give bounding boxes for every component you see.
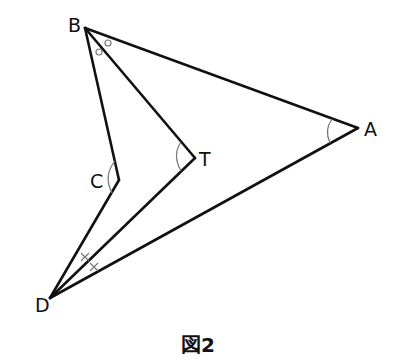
label-C: C xyxy=(90,170,103,192)
label-A: A xyxy=(364,118,377,140)
segment-TD xyxy=(50,158,195,298)
equal-angle-cross-2 xyxy=(90,263,98,271)
equal-angle-cross-1 xyxy=(81,253,89,261)
equal-angle-circle-1 xyxy=(105,40,111,46)
label-D: D xyxy=(35,294,50,316)
angle-arc-T xyxy=(177,142,182,171)
label-T: T xyxy=(198,148,211,170)
figure-caption: 図2 xyxy=(181,333,215,357)
angle-arc-A xyxy=(327,119,332,143)
equal-angle-circle-2 xyxy=(96,49,102,55)
geometry-figure: B A T C D 図2 xyxy=(0,0,401,360)
label-B: B xyxy=(68,14,81,36)
